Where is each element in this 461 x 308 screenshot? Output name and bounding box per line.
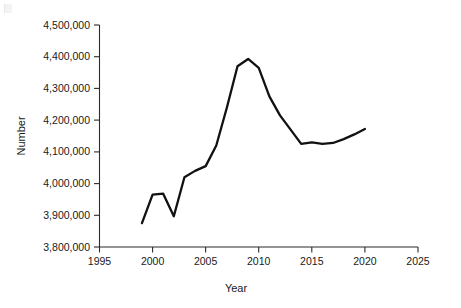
y-tick-label: 3,800,000: [43, 241, 90, 253]
line-chart-canvas: 3,800,000 3,900,000 4,000,000 4,100,000 …: [0, 0, 461, 308]
y-axis-title: Number: [15, 116, 27, 155]
y-tick-label: 4,200,000: [43, 114, 90, 126]
x-tick-label: 2010: [247, 255, 271, 267]
x-tick-label: 2020: [353, 255, 377, 267]
y-tick-label: 4,100,000: [43, 145, 90, 157]
y-axis-tick-labels: 3,800,000 3,900,000 4,000,000 4,100,000 …: [43, 19, 90, 253]
x-axis-tick-labels: 1995 2000 2005 2010 2015 2020 2025: [88, 255, 430, 267]
x-axis-title: Year: [225, 282, 248, 294]
chart-container: 3,800,000 3,900,000 4,000,000 4,100,000 …: [0, 0, 461, 308]
x-tick-label: 2005: [194, 255, 218, 267]
y-tick-label: 3,900,000: [43, 209, 90, 221]
x-tick-label: 2000: [141, 255, 165, 267]
y-tick-label: 4,300,000: [43, 82, 90, 94]
y-tick-label: 4,500,000: [43, 19, 90, 31]
x-tick-label: 2025: [406, 255, 430, 267]
y-axis-ticks: [94, 25, 100, 247]
data-series-line: [142, 59, 365, 223]
x-tick-label: 1995: [88, 255, 112, 267]
x-axis-ticks: [100, 247, 419, 253]
x-tick-label: 2015: [300, 255, 324, 267]
y-tick-label: 4,400,000: [43, 50, 90, 62]
y-tick-label: 4,000,000: [43, 177, 90, 189]
